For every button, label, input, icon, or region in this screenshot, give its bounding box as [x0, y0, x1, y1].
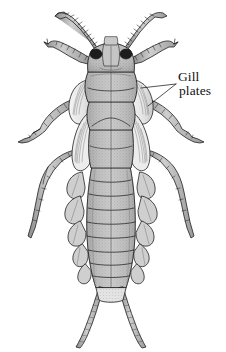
nymph-illustration — [0, 0, 226, 352]
foreleg-left — [44, 39, 90, 64]
annotation-line-1: Gill — [178, 70, 211, 84]
compound-eye-right — [120, 49, 132, 59]
metathorax — [89, 128, 134, 168]
foreleg-right — [132, 39, 178, 64]
abdomen — [87, 166, 136, 288]
compound-eye-left — [90, 49, 102, 59]
terminal-segment — [96, 288, 126, 302]
pronotum — [85, 72, 137, 102]
annotation-gill-plates: Gill plates — [178, 70, 211, 98]
figure-nymph-diagram: Gill plates — [0, 0, 226, 352]
mesothorax — [87, 100, 135, 130]
annotation-line-2: plates — [178, 84, 211, 98]
